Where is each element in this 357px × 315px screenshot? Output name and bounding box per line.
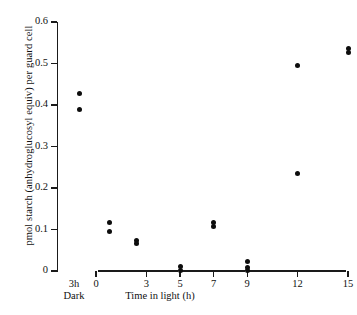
- data-point: [346, 50, 351, 55]
- data-point: [107, 229, 112, 234]
- data-point: [295, 171, 300, 176]
- y-axis-line: [57, 22, 58, 272]
- x-axis-tick: [297, 271, 298, 277]
- x-axis-title: Time in light (h): [90, 290, 230, 301]
- x-axis-tick: [95, 271, 96, 277]
- scatter-plot-figure: pmol starch (anhydroglucosyl equiv) per …: [0, 0, 357, 315]
- x-axis-segment: [98, 270, 178, 272]
- x-axis-tick: [213, 271, 214, 277]
- y-axis-tick: [51, 146, 57, 147]
- y-axis-tick-label: 0.3: [16, 140, 48, 151]
- y-axis-tick: [51, 21, 57, 22]
- data-point: [77, 91, 82, 96]
- y-axis-tick: [51, 270, 57, 271]
- data-point: [178, 268, 183, 273]
- x-axis-tick-label: 12: [286, 278, 310, 289]
- data-point: [107, 220, 112, 225]
- y-axis-tick-label: 0.1: [16, 223, 48, 234]
- dark-category-label-line2: Dark: [54, 290, 94, 301]
- data-point: [211, 224, 216, 229]
- data-point: [245, 259, 250, 264]
- data-point: [134, 241, 139, 246]
- y-axis-tick: [51, 104, 57, 105]
- y-axis-tick: [51, 63, 57, 64]
- x-axis-tick-label: 7: [202, 278, 226, 289]
- y-axis-tick-label: 0.2: [16, 181, 48, 192]
- y-axis-tick-label: 0.4: [16, 98, 48, 109]
- x-axis-tick: [347, 271, 348, 277]
- y-axis-tick: [51, 229, 57, 230]
- data-point: [77, 107, 82, 112]
- x-axis-tick-label: 9: [235, 278, 259, 289]
- data-point: [245, 268, 250, 273]
- x-axis-tick-label: 5: [168, 278, 192, 289]
- x-axis-tick-label: 3: [134, 278, 158, 289]
- y-axis-tick-label: 0.5: [16, 57, 48, 68]
- dark-category-label-line1: 3h: [54, 278, 94, 289]
- y-axis-tick-label: 0.6: [16, 15, 48, 26]
- x-axis-tick: [146, 271, 147, 277]
- data-point: [295, 63, 300, 68]
- x-axis-tick-label: 15: [336, 278, 357, 289]
- y-axis-tick: [51, 187, 57, 188]
- y-axis-tick-label: 0: [16, 264, 48, 275]
